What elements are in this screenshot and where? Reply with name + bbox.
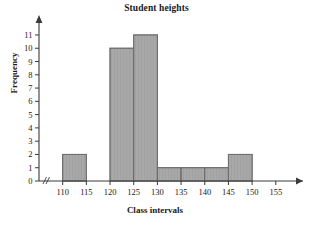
x-tick-label: 110 <box>56 187 68 197</box>
y-tick-label: 4 <box>28 123 33 133</box>
histogram-bar-hatch <box>134 36 156 181</box>
y-tick-label: 3 <box>28 136 32 146</box>
x-tick-label: 115 <box>80 187 92 197</box>
x-axis-ticks: 110115120125130135140145150155 <box>56 181 282 197</box>
bars-group <box>63 35 252 181</box>
x-tick-label: 150 <box>246 187 259 197</box>
y-axis-arrowhead <box>36 15 43 23</box>
histogram-bar-hatch <box>205 168 227 180</box>
y-tick-label: 11 <box>24 30 32 40</box>
x-tick-label: 155 <box>269 187 282 197</box>
x-tick-label: 145 <box>222 187 235 197</box>
x-tick-label: 125 <box>127 187 140 197</box>
y-tick-label: 1 <box>28 163 32 173</box>
x-tick-label: 140 <box>198 187 211 197</box>
histogram-bar-hatch <box>182 168 204 180</box>
y-tick-label: 5 <box>28 110 32 120</box>
x-tick-label: 130 <box>151 187 164 197</box>
x-axis-arrowhead <box>296 178 303 185</box>
x-tick-label: 120 <box>104 187 117 197</box>
y-tick-label: 8 <box>28 70 32 80</box>
histogram-bar-hatch <box>229 155 251 180</box>
histogram-bar-hatch <box>111 49 133 181</box>
y-axis-ticks: 01234567891011 <box>24 30 39 186</box>
y-tick-label: 10 <box>24 43 33 53</box>
histogram-bar-hatch <box>158 168 180 180</box>
y-tick-label: 2 <box>28 149 32 159</box>
y-tick-label: 6 <box>28 96 32 106</box>
histogram-bar-hatch <box>63 155 85 180</box>
y-tick-label: 7 <box>28 83 32 93</box>
y-tick-label: 0 <box>28 176 32 186</box>
histogram-chart: Student heights Frequency Class interval… <box>0 0 313 225</box>
y-tick-label: 9 <box>28 57 32 67</box>
plot-area: 01234567891011 1101151201251301351401451… <box>0 0 313 225</box>
x-tick-label: 135 <box>175 187 188 197</box>
